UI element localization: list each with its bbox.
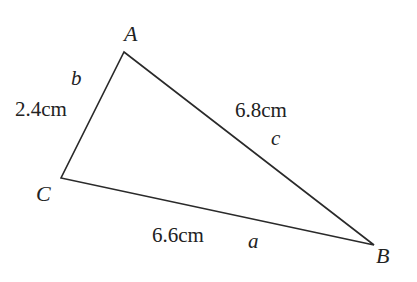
side-label-b: b: [71, 66, 82, 90]
side-length-b: 2.4cm: [15, 97, 67, 121]
side-length-a: 6.6cm: [152, 223, 204, 247]
vertex-label-c: C: [36, 181, 51, 206]
side-label-a: a: [248, 229, 259, 253]
vertex-label-a: A: [122, 21, 138, 46]
side-length-c: 6.8cm: [235, 98, 287, 122]
triangle-diagram: A B C b 2.4cm 6.8cm c 6.6cm a: [0, 0, 417, 282]
vertex-label-b: B: [376, 243, 389, 268]
side-label-c: c: [271, 126, 281, 150]
triangle-abc: [61, 52, 374, 245]
